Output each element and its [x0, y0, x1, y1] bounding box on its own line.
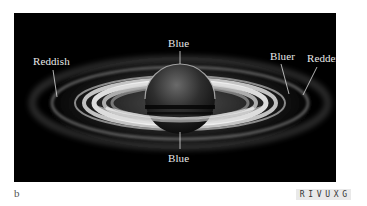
- annotation-redder: Redder: [307, 52, 336, 64]
- saturn-photo: Reddish Blue Blue Bluer Redder: [14, 13, 336, 182]
- wavelength-letter-r: R: [298, 189, 307, 200]
- annotation-blue-top: Blue: [168, 37, 189, 49]
- wavelength-letter-i: I: [307, 189, 316, 200]
- annotation-bluer: Bluer: [270, 50, 295, 62]
- wavelength-letter-g: G: [341, 189, 350, 200]
- wavelength-letter-x: X: [332, 189, 341, 200]
- wavelength-letter-v: V: [315, 189, 324, 200]
- annotation-reddish: Reddish: [33, 55, 70, 67]
- wavelength-letter-u: U: [324, 189, 333, 200]
- wavelength-badge: R I V U X G: [296, 189, 351, 200]
- annotation-blue-bottom: Blue: [168, 152, 189, 164]
- panel-label: b: [14, 187, 20, 199]
